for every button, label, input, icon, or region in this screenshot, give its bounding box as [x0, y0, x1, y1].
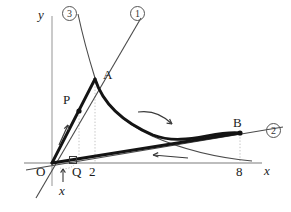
curve-label-2: 2 [266, 123, 281, 138]
figure-canvas [0, 0, 291, 212]
y-axis-label: y [38, 8, 44, 21]
x-tick-label-2: 2 [89, 165, 96, 178]
point-label-b: B [233, 116, 242, 129]
point-label-p: P [63, 93, 70, 106]
geometry-figure: y x O A B P Q 2 8 x 3 1 2 [0, 0, 291, 212]
motion-arrow-ab-icon [138, 112, 172, 124]
point-dot-B [237, 130, 242, 135]
variable-x-label: x [59, 184, 65, 197]
motion-arrow-bo-icon [153, 153, 188, 158]
x-tick-label-8: 8 [236, 165, 243, 178]
bold-curve-AB [95, 79, 240, 139]
bold-segment-OA [52, 79, 95, 163]
point-label-q: Q [72, 165, 81, 178]
origin-label: O [36, 165, 45, 178]
variable-x-arrow-icon [61, 169, 66, 182]
curve-label-1: 1 [130, 6, 145, 21]
point-label-a: A [103, 68, 112, 81]
x-axis-label: x [264, 164, 270, 177]
curve-label-3: 3 [62, 6, 77, 21]
bold-segment-BO [52, 133, 240, 163]
point-dot-P [76, 108, 81, 113]
